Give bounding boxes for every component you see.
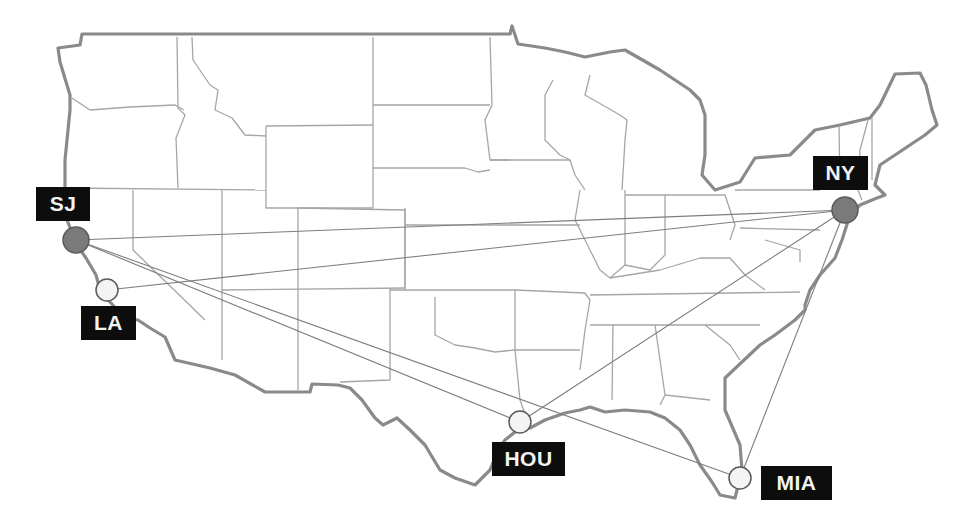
mia-label: MIA xyxy=(761,466,832,500)
us-map xyxy=(0,0,965,529)
mia-city-marker[interactable] xyxy=(729,467,751,489)
la-label: LA xyxy=(81,306,136,340)
ny-label: NY xyxy=(813,156,868,190)
us-outline xyxy=(58,26,937,498)
hou-city-marker[interactable] xyxy=(509,411,531,433)
sj-hub-marker[interactable] xyxy=(63,227,89,253)
la-city-marker[interactable] xyxy=(96,279,118,301)
hou-label: HOU xyxy=(492,442,565,476)
sj-label: SJ xyxy=(36,187,90,221)
ny-hub-marker[interactable] xyxy=(832,197,858,223)
